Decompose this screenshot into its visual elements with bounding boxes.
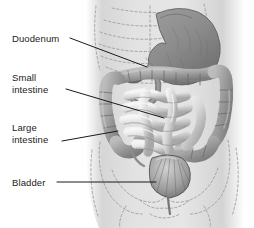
- label-duodenum: Duodenum: [12, 33, 59, 45]
- label-bladder: Bladder: [12, 177, 45, 189]
- label-small-intestine: Small intestine: [12, 72, 48, 95]
- label-large-intestine: Large intestine: [12, 122, 48, 145]
- anatomy-figure-page: Duodenum Small intestine Large intestine…: [0, 0, 254, 228]
